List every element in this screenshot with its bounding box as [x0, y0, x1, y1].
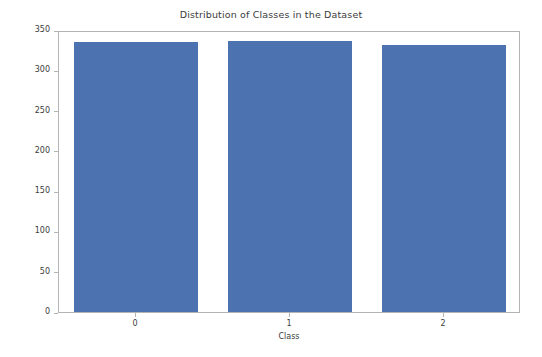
y-tick-label: 250	[0, 106, 50, 115]
bar	[228, 41, 351, 312]
x-tick-label: 2	[413, 319, 473, 328]
bar	[382, 45, 505, 312]
x-tick-mark	[443, 313, 444, 317]
y-tick-label: 300	[0, 65, 50, 74]
y-tick-label: 100	[0, 226, 50, 235]
y-tick-label: 50	[0, 267, 50, 276]
x-axis-label: Class	[58, 332, 520, 341]
bar	[74, 42, 197, 312]
chart-title: Distribution of Classes in the Dataset	[0, 9, 542, 20]
x-tick-mark	[289, 313, 290, 317]
bars-layer	[59, 32, 519, 312]
y-tick-label: 150	[0, 186, 50, 195]
plot-area	[58, 31, 520, 313]
y-tick-label: 200	[0, 146, 50, 155]
x-tick-mark	[135, 313, 136, 317]
y-tick-label: 0	[0, 307, 50, 316]
x-tick-label: 0	[105, 319, 165, 328]
chart-figure: Distribution of Classes in the Dataset F…	[0, 0, 542, 357]
y-tick-label: 350	[0, 25, 50, 34]
x-tick-label: 1	[259, 319, 319, 328]
